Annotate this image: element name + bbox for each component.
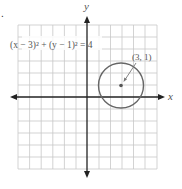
coordinate-plane [0,0,182,189]
center-point [119,84,123,88]
center-pointer-arrow [124,63,137,82]
y-axis-down-arrow-icon [84,171,90,178]
y-axis-label: y [84,0,89,12]
y-axis-up-arrow-icon [84,16,90,23]
x-axis-right-arrow-icon [158,94,165,100]
equation-label: (x − 3)² + (y − 1)² = 4 [10,40,93,50]
center-label: (3, 1) [132,52,152,62]
x-axis-left-arrow-icon [10,94,17,100]
x-axis-label: x [168,90,173,102]
